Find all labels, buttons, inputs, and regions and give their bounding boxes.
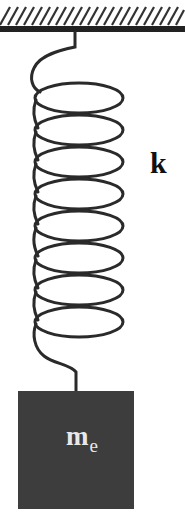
mass-label-subscript: e [90,435,98,456]
spring-coil [32,32,123,391]
ceiling-bar [0,26,185,32]
ceiling-hatching [0,7,184,25]
spring-constant-label: k [150,148,167,178]
mass-label-main: m [66,421,89,451]
mass-label: me [66,423,98,450]
